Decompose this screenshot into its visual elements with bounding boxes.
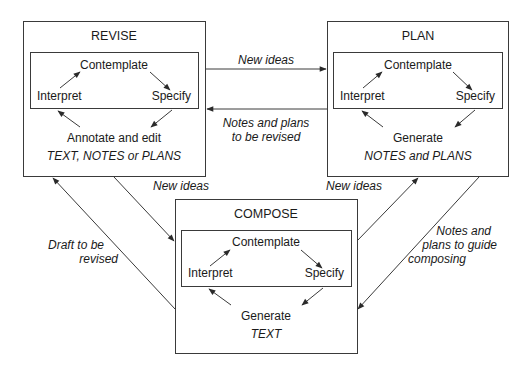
compose-action: Generate [241,309,291,323]
plan-to-compose-label-line1: Notes and [436,224,491,238]
compose-to-plan-label: New ideas [326,179,382,193]
plan-contemplate-to-specify-arrow [453,72,472,90]
revise-specify: Specify [152,89,191,103]
revise-interpret: Interpret [37,89,82,103]
plan-interpret: Interpret [340,89,385,103]
revise-contemplate: Contemplate [80,58,148,72]
revise-node: REVISE Contemplate Interpret Specify Ann… [24,22,206,177]
compose-contemplate: Contemplate [232,235,300,249]
compose-title: COMPOSE [234,207,298,221]
plan-specify-to-action-arrow [455,110,475,127]
compose-interpret-to-contemplate-arrow [210,250,230,266]
plan-output: NOTES and PLANS [364,149,471,163]
plan-node: PLAN Contemplate Interpret Specify Gener… [328,22,509,177]
revise-action: Annotate and edit [67,131,162,145]
revise-to-plan-label: New ideas [238,53,294,67]
plan-to-revise-label-line1: Notes and plans [223,116,310,130]
revise-specify-to-action-arrow [151,110,172,127]
revise-interpret-to-contemplate-arrow [60,72,80,88]
revise-to-compose-label: New ideas [153,179,209,193]
plan-specify: Specify [456,89,495,103]
revise-title: REVISE [91,29,137,43]
compose-interpret: Interpret [188,266,233,280]
plan-interpret-to-contemplate-arrow [363,72,382,88]
plan-title: PLAN [402,29,435,43]
plan-contemplate: Contemplate [384,58,452,72]
plan-action: Generate [393,131,443,145]
plan-to-compose-label-line2: plans to guide [421,238,497,252]
compose-to-revise-label-line1: Draft to be [48,238,104,252]
plan-action-to-interpret-arrow [362,111,383,127]
compose-specify-to-action-arrow [302,288,323,305]
compose-action-to-interpret-arrow [209,289,231,305]
compose-node: COMPOSE Contemplate Interpret Specify Ge… [176,200,358,354]
revise-action-to-interpret-arrow [58,111,80,127]
plan-to-revise-label-line2: to be revised [232,130,301,144]
writing-process-diagram: REVISE Contemplate Interpret Specify Ann… [0,0,528,372]
compose-output: TEXT [251,327,283,341]
compose-specify: Specify [305,266,344,280]
revise-contemplate-to-specify-arrow [150,72,170,90]
plan-to-compose-label-line3: composing [408,252,466,266]
revise-output: TEXT, NOTES or PLANS [47,149,181,163]
compose-to-revise-label-line2: revised [79,252,118,266]
